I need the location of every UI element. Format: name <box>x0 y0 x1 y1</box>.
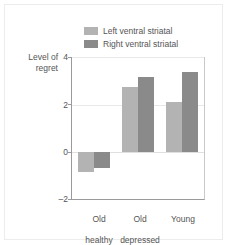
legend-swatch-left-ventral-striatal <box>84 27 98 35</box>
y-tick-label-minus2: –2 <box>44 195 68 204</box>
y-tick-label-4: 4 <box>44 53 68 62</box>
legend-label-right-ventral-striatal: Right ventral striatal <box>103 39 178 49</box>
bar-old-healthy-right <box>94 152 110 169</box>
y-tick-label-2: 2 <box>44 101 68 110</box>
y-axis-label-line2: regret <box>10 63 58 74</box>
legend-item-left-ventral-striatal: Left ventral striatal <box>84 26 178 36</box>
chart-figure: Left ventral striatal Right ventral stri… <box>0 0 228 245</box>
x-tick-label-young: Young <box>158 203 208 245</box>
bar-group-container <box>72 57 204 199</box>
bar-old-depressed-left <box>122 87 138 152</box>
x-tick-label-young-line1: Young <box>158 214 208 225</box>
legend-item-right-ventral-striatal: Right ventral striatal <box>84 39 178 49</box>
y-tick-label-0: 0 <box>44 148 68 157</box>
chart-legend: Left ventral striatal Right ventral stri… <box>84 26 178 49</box>
plot-area <box>71 57 205 200</box>
legend-label-left-ventral-striatal: Left ventral striatal <box>103 26 172 36</box>
legend-swatch-right-ventral-striatal <box>84 40 98 48</box>
bar-old-depressed-right <box>138 77 154 152</box>
bar-young-left <box>166 102 182 152</box>
bar-old-healthy-left <box>78 152 94 172</box>
bar-young-right <box>182 72 198 151</box>
